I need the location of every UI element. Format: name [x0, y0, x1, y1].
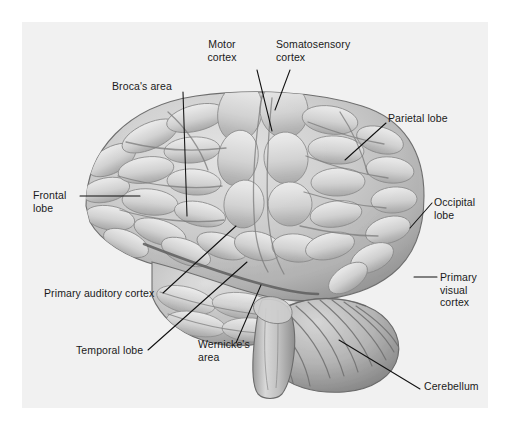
label-brocas-area: Broca's area: [112, 80, 202, 93]
brain-anatomy-figure: Motor cortex Somatosensory cortex Broca'…: [0, 0, 509, 431]
label-parietal-lobe: Parietal lobe: [388, 112, 478, 125]
label-motor-cortex: Motor cortex: [190, 38, 254, 63]
label-wernickes-area: Wernicke's area: [198, 338, 270, 363]
label-cerebellum: Cerebellum: [424, 380, 500, 393]
cerebrum-group: [80, 78, 424, 300]
label-occipital-lobe: Occipital lobe: [434, 196, 498, 221]
label-frontal-lobe: Frontal lobe: [33, 189, 83, 214]
label-somatosensory-cortex: Somatosensory cortex: [276, 38, 386, 63]
label-primary-auditory-cortex: Primary auditory cortex: [44, 287, 174, 300]
label-temporal-lobe: Temporal lobe: [76, 344, 162, 357]
label-primary-visual-cortex: Primary visual cortex: [440, 271, 502, 309]
brain-illustration: [0, 0, 509, 431]
